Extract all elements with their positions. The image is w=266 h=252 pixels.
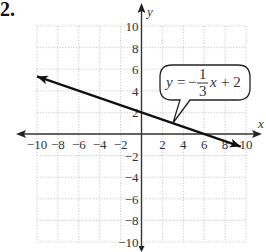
y-tick-label: −6 bbox=[125, 192, 139, 207]
eq-sign: − bbox=[188, 74, 196, 90]
y-tick-label: 8 bbox=[132, 41, 139, 56]
y-tick-label: −8 bbox=[125, 213, 139, 228]
x-tick-label: −6 bbox=[72, 137, 86, 152]
y-tick-label: −4 bbox=[125, 170, 139, 185]
x-tick-label: −8 bbox=[51, 137, 65, 152]
y-tick-label: 4 bbox=[132, 84, 139, 99]
eq-equals: = bbox=[177, 74, 185, 90]
y-tick-label: 10 bbox=[126, 19, 139, 34]
eq-rest: + 2 bbox=[221, 74, 241, 90]
x-axis-label: x bbox=[257, 116, 264, 131]
x-tick-label: 10 bbox=[240, 137, 253, 152]
x-tick-label: −10 bbox=[27, 137, 47, 152]
x-tick-label: 6 bbox=[201, 137, 208, 152]
y-tick-label: 6 bbox=[132, 62, 139, 77]
y-axis-label: y bbox=[145, 4, 153, 19]
eq-numerator: 1 bbox=[199, 66, 207, 82]
y-tick-label: 2 bbox=[132, 105, 139, 120]
x-tick-label: 2 bbox=[159, 137, 166, 152]
eq-denominator: 3 bbox=[199, 83, 207, 99]
eq-var: x bbox=[209, 74, 217, 90]
y-axis-down-arrow-icon bbox=[139, 246, 145, 252]
equation-callout: y = − 1 3 x + 2 bbox=[160, 65, 250, 123]
y-tick-label: −2 bbox=[125, 149, 139, 164]
x-tick-label: −4 bbox=[93, 137, 107, 152]
coordinate-graph: −10−8−6−4−2246810 108642−2−4−6−8−10 x y … bbox=[0, 0, 266, 252]
eq-lhs: y bbox=[164, 74, 173, 90]
y-tick-label: −10 bbox=[118, 235, 138, 250]
x-tick-label: 4 bbox=[180, 137, 187, 152]
